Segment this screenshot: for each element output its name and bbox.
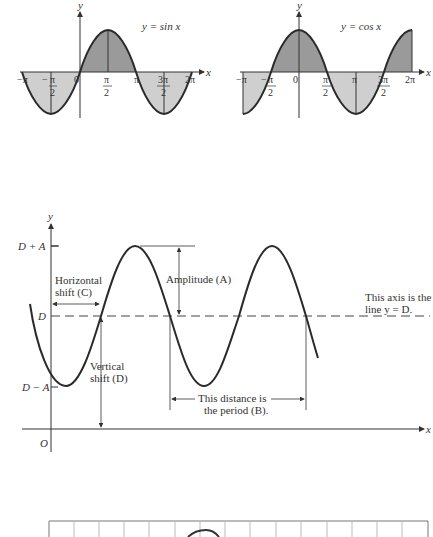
cosine-positive-region-right (384, 30, 412, 72)
tick-three-half-pi-den: 2 (161, 87, 166, 98)
tick-d-minus-a: D − A (21, 381, 50, 393)
curve-peak-fragment (188, 530, 219, 537)
tick-half-pi-den: 2 (323, 87, 328, 98)
tick-two-pi: 2π (405, 74, 415, 85)
graph-title: y = cos x (340, 20, 381, 32)
cosine-negative-region-left (243, 72, 271, 114)
amplitude-label: Amplitude (A) (166, 273, 231, 286)
diagram-canvas: y x y = sin x −π − π 2 0 π 2 π 3π 2 2π y… (0, 0, 433, 537)
tick-pi: π (134, 74, 139, 85)
x-axis-label: x (205, 66, 211, 78)
graph-title: y = sin x (141, 20, 180, 32)
tick-neg-pi: −π (17, 74, 28, 85)
tick-zero: 0 (293, 74, 298, 85)
tick-half-pi-den: 2 (104, 87, 109, 98)
tick-neg-pi: −π (236, 74, 247, 85)
tick-neg-half-pi-den: 2 (268, 87, 273, 98)
axis-note-line2: line y = D. (365, 303, 412, 315)
tick-two-pi: 2π (185, 74, 195, 85)
y-axis-label: y (296, 0, 302, 11)
tick-neg-half-pi-sign: − (261, 74, 267, 85)
cosine-graph: y x y = cos x −π − π 2 0 π 2 π 3π 2 2π (236, 0, 431, 118)
y-axis-label: y (47, 210, 53, 222)
horizontal-shift-label-line1: Horizontal (55, 274, 102, 286)
bottom-grid (49, 521, 428, 537)
tick-zero: 0 (74, 74, 79, 85)
y-axis-label: y (77, 0, 83, 11)
horizontal-shift-label-line2: shift (C) (55, 286, 92, 299)
period-label-line1: This distance is (198, 392, 266, 404)
period-label-line2: the period (B). (204, 404, 269, 417)
x-axis-label: x (425, 423, 431, 435)
tick-neg-half-pi-num: π (50, 74, 55, 85)
origin-label: O (40, 437, 48, 449)
tick-three-half-pi-den: 2 (381, 87, 386, 98)
tick-d-plus-a: D + A (17, 240, 46, 252)
tick-three-half-pi-num: 3π (158, 74, 168, 85)
tick-half-pi-num: π (323, 74, 328, 85)
sinusoid-parameters-graph: y x O D + A D D − A Amplitude (A) Horizo… (17, 210, 431, 452)
tick-half-pi-num: π (104, 74, 109, 85)
tick-pi: π (352, 74, 357, 85)
tick-neg-half-pi-den: 2 (50, 87, 55, 98)
x-axis-label: x (425, 66, 431, 78)
tick-three-half-pi-num: 3π (378, 74, 388, 85)
tick-d: D (37, 310, 46, 322)
vertical-shift-label-line2: shift (D) (90, 372, 128, 385)
vertical-shift-label-line1: Vertical (90, 360, 124, 372)
sine-graph: y x y = sin x −π − π 2 0 π 2 π 3π 2 2π (17, 0, 211, 118)
tick-neg-half-pi-sign: − (42, 74, 48, 85)
tick-neg-half-pi-num: π (268, 74, 273, 85)
axis-note-line1: This axis is the (365, 291, 431, 303)
